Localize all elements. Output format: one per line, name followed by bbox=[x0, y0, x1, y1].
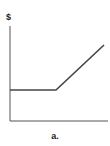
chart-plot bbox=[0, 0, 110, 146]
data-line bbox=[10, 45, 104, 90]
chart-caption: a. bbox=[0, 131, 110, 141]
